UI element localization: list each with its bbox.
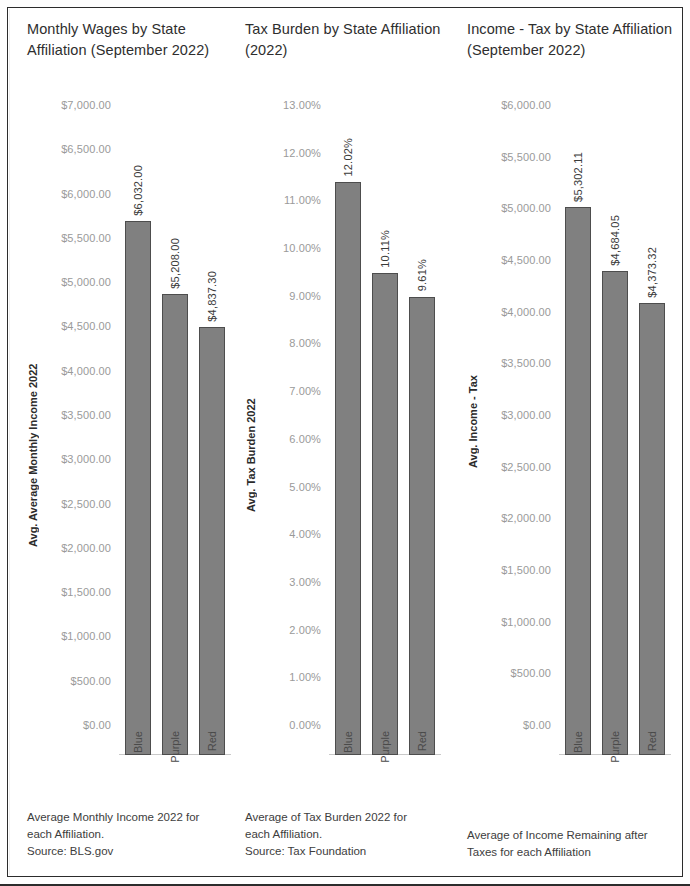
- y-axis-tick-label: 8.00%: [289, 337, 321, 349]
- y-axis-tick-label: $4,000.00: [61, 365, 111, 377]
- bar-value-label: $4,373.32: [646, 247, 658, 298]
- caption-line: each Affiliation.: [27, 826, 232, 843]
- y-axis-tick-label: $1,500.00: [61, 586, 111, 598]
- y-axis-tick-label: $500.00: [71, 675, 111, 687]
- x-axis-category-label: Blue: [132, 731, 144, 753]
- bar-red[interactable]: [199, 327, 225, 755]
- bar-value-label: $4,837.30: [206, 271, 218, 322]
- bar-value-label: $5,302.11: [572, 152, 584, 202]
- x-axis-category-label: Purple: [169, 731, 181, 763]
- y-axis-tick-label: $1,000.00: [61, 630, 111, 642]
- x-axis-category-label: Purple: [379, 731, 391, 763]
- caption-line: Average of Income Remaining after: [467, 827, 667, 844]
- caption-line: each Affiliation.: [245, 826, 441, 843]
- bar-group[interactable]: $4,684.05: [602, 135, 628, 755]
- y-axis-tick-label: $0.00: [523, 719, 551, 731]
- y-axis-tick-label: $4,500.00: [61, 320, 111, 332]
- x-axis-category-label: Purple: [609, 731, 621, 763]
- caption-line: Average of Tax Burden 2022 for: [245, 809, 441, 826]
- bar-purple[interactable]: [602, 271, 628, 755]
- bar-group[interactable]: 9.61%: [409, 135, 435, 755]
- y-axis-tick-label: $2,000.00: [61, 542, 111, 554]
- x-axis-category-label: Red: [646, 731, 658, 751]
- bar-group[interactable]: $5,302.11: [565, 135, 591, 755]
- bar-group[interactable]: 10.11%: [372, 135, 398, 755]
- x-axis-category-label: Red: [416, 731, 428, 751]
- y-axis-tick-label: $3,000.00: [501, 409, 551, 421]
- bar-group[interactable]: $4,373.32: [639, 135, 665, 755]
- y-axis-ticks-tax-burden: 13.00%12.00%11.00%10.00%9.00%8.00%7.00%6…: [259, 105, 321, 755]
- bars-monthly-wages: $6,032.00$5,208.00$4,837.30: [119, 135, 231, 755]
- bar-red[interactable]: [639, 303, 665, 755]
- caption-monthly-wages: Average Monthly Income 2022 for each Aff…: [27, 809, 232, 860]
- x-axis-category-label: Blue: [572, 731, 584, 753]
- chart-panel-income-minus-tax: Income - Tax by State Affiliation (Septe…: [447, 9, 681, 875]
- chart-panel-monthly-wages: Monthly Wages by State Affiliation (Sept…: [9, 9, 237, 875]
- bar-purple[interactable]: [372, 273, 398, 755]
- x-axis-category-label: Red: [206, 731, 218, 751]
- y-axis-tick-label: $0.00: [83, 719, 111, 731]
- caption-line: Average Monthly Income 2022 for: [27, 809, 232, 826]
- plot-area-monthly-wages: Avg. Average Monthly Income 2022 $7,000.…: [27, 105, 237, 755]
- bar-red[interactable]: [409, 297, 435, 755]
- bars-tax-burden: 12.02%10.11%9.61%: [329, 135, 441, 755]
- y-axis-tick-label: 13.00%: [283, 99, 321, 111]
- y-axis-tick-label: 5.00%: [289, 481, 321, 493]
- chart-panel-container: Monthly Wages by State Affiliation (Sept…: [9, 9, 681, 875]
- x-axis-categories-monthly-wages: BluePurpleRed: [119, 725, 231, 755]
- y-axis-tick-label: 7.00%: [289, 385, 321, 397]
- x-axis-categories-tax-burden: BluePurpleRed: [329, 725, 441, 755]
- y-axis-tick-label: $2,500.00: [61, 498, 111, 510]
- bar-blue[interactable]: [335, 182, 361, 755]
- bar-value-label: $5,208.00: [169, 238, 181, 289]
- plot-area-income-minus-tax: Avg. Income - Tax $6,000.00$5,500.00$5,0…: [467, 105, 673, 755]
- bars-income-minus-tax: $5,302.11$4,684.05$4,373.32: [559, 135, 671, 755]
- chart-title-income-minus-tax: Income - Tax by State Affiliation (Septe…: [467, 19, 677, 61]
- page-root: Monthly Wages by State Affiliation (Sept…: [0, 0, 690, 886]
- bar-group[interactable]: $6,032.00: [125, 135, 151, 755]
- y-axis-tick-label: 12.00%: [283, 147, 321, 159]
- y-axis-tick-label: $3,000.00: [61, 453, 111, 465]
- bar-purple[interactable]: [162, 294, 188, 755]
- y-axis-tick-label: $1,500.00: [501, 564, 551, 576]
- bar-value-label: $4,684.05: [609, 215, 621, 266]
- y-axis-tick-label: $6,000.00: [61, 188, 111, 200]
- y-axis-tick-label: $6,000.00: [501, 99, 551, 111]
- bar-blue[interactable]: [565, 207, 591, 755]
- y-axis-tick-label: 0.00%: [289, 719, 321, 731]
- bar-group[interactable]: $4,837.30: [199, 135, 225, 755]
- caption-tax-burden: Average of Tax Burden 2022 for each Affi…: [245, 809, 441, 860]
- bar-group[interactable]: 12.02%: [335, 135, 361, 755]
- bar-value-label: $6,032.00: [132, 165, 144, 216]
- chart-title-tax-burden: Tax Burden by State Affiliation (2022): [245, 19, 441, 61]
- y-axis-tick-label: $1,000.00: [501, 616, 551, 628]
- caption-line: Taxes for each Affiliation: [467, 844, 667, 861]
- y-axis-tick-label: 6.00%: [289, 433, 321, 445]
- y-axis-tick-label: $5,500.00: [61, 232, 111, 244]
- bar-group[interactable]: $5,208.00: [162, 135, 188, 755]
- y-axis-tick-label: $4,000.00: [501, 306, 551, 318]
- y-axis-tick-label: $5,000.00: [501, 202, 551, 214]
- y-axis-ticks-monthly-wages: $7,000.00$6,500.00$6,000.00$5,500.00$5,0…: [41, 105, 111, 755]
- y-axis-tick-label: 1.00%: [289, 671, 321, 683]
- bar-blue[interactable]: [125, 221, 151, 755]
- bar-value-label: 12.02%: [342, 138, 354, 177]
- y-axis-tick-label: $3,500.00: [501, 357, 551, 369]
- y-axis-tick-label: $2,000.00: [501, 512, 551, 524]
- y-axis-tick-label: 9.00%: [289, 290, 321, 302]
- chart-title-monthly-wages: Monthly Wages by State Affiliation (Sept…: [27, 19, 227, 61]
- y-axis-tick-label: 11.00%: [284, 194, 321, 206]
- caption-line: Source: BLS.gov: [27, 843, 232, 860]
- y-axis-tick-label: 2.00%: [289, 624, 321, 636]
- y-axis-tick-label: $6,500.00: [61, 143, 111, 155]
- y-axis-title-monthly-wages: Avg. Average Monthly Income 2022: [27, 360, 39, 550]
- y-axis-tick-label: 3.00%: [289, 576, 321, 588]
- y-axis-tick-label: $5,500.00: [501, 151, 551, 163]
- caption-income-minus-tax: Average of Income Remaining after Taxes …: [467, 827, 667, 861]
- plot-area-tax-burden: Avg. Tax Burden 2022 13.00%12.00%11.00%1…: [245, 105, 441, 755]
- y-axis-tick-label: $7,000.00: [61, 99, 111, 111]
- y-axis-tick-label: 4.00%: [289, 528, 321, 540]
- x-axis-categories-income-minus-tax: BluePurpleRed: [559, 725, 671, 755]
- y-axis-tick-label: $4,500.00: [501, 254, 551, 266]
- y-axis-ticks-income-minus-tax: $6,000.00$5,500.00$5,000.00$4,500.00$4,0…: [481, 105, 551, 755]
